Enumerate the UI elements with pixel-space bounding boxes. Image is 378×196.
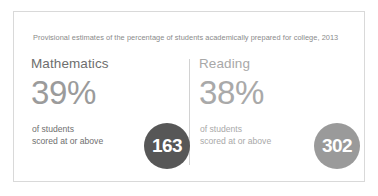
panel-caption-line1: of students <box>32 124 103 136</box>
panel-subject-label: Mathematics <box>31 56 109 72</box>
panel-percent-value: 38% <box>199 74 264 112</box>
panel-caption-line1: of students <box>200 124 271 136</box>
panel-score-badge: 163 <box>144 123 190 169</box>
panel-caption-line2: scored at or above <box>32 136 103 148</box>
panel-percent-value: 39% <box>31 74 96 112</box>
infographic-card: Provisional estimates of the percentage … <box>13 11 365 182</box>
panel-mathematics: Mathematics 39% of students scored at or… <box>31 56 196 171</box>
panel-caption: of students scored at or above <box>32 124 103 147</box>
panel-caption: of students scored at or above <box>200 124 271 147</box>
panel-caption-line2: scored at or above <box>200 136 271 148</box>
panel-score-badge: 302 <box>314 123 360 169</box>
panel-reading: Reading 38% of students scored at or abo… <box>199 56 364 171</box>
card-header-title: Provisional estimates of the percentage … <box>33 33 348 43</box>
panel-subject-label: Reading <box>199 56 250 72</box>
panels-container: Mathematics 39% of students scored at or… <box>14 56 364 171</box>
